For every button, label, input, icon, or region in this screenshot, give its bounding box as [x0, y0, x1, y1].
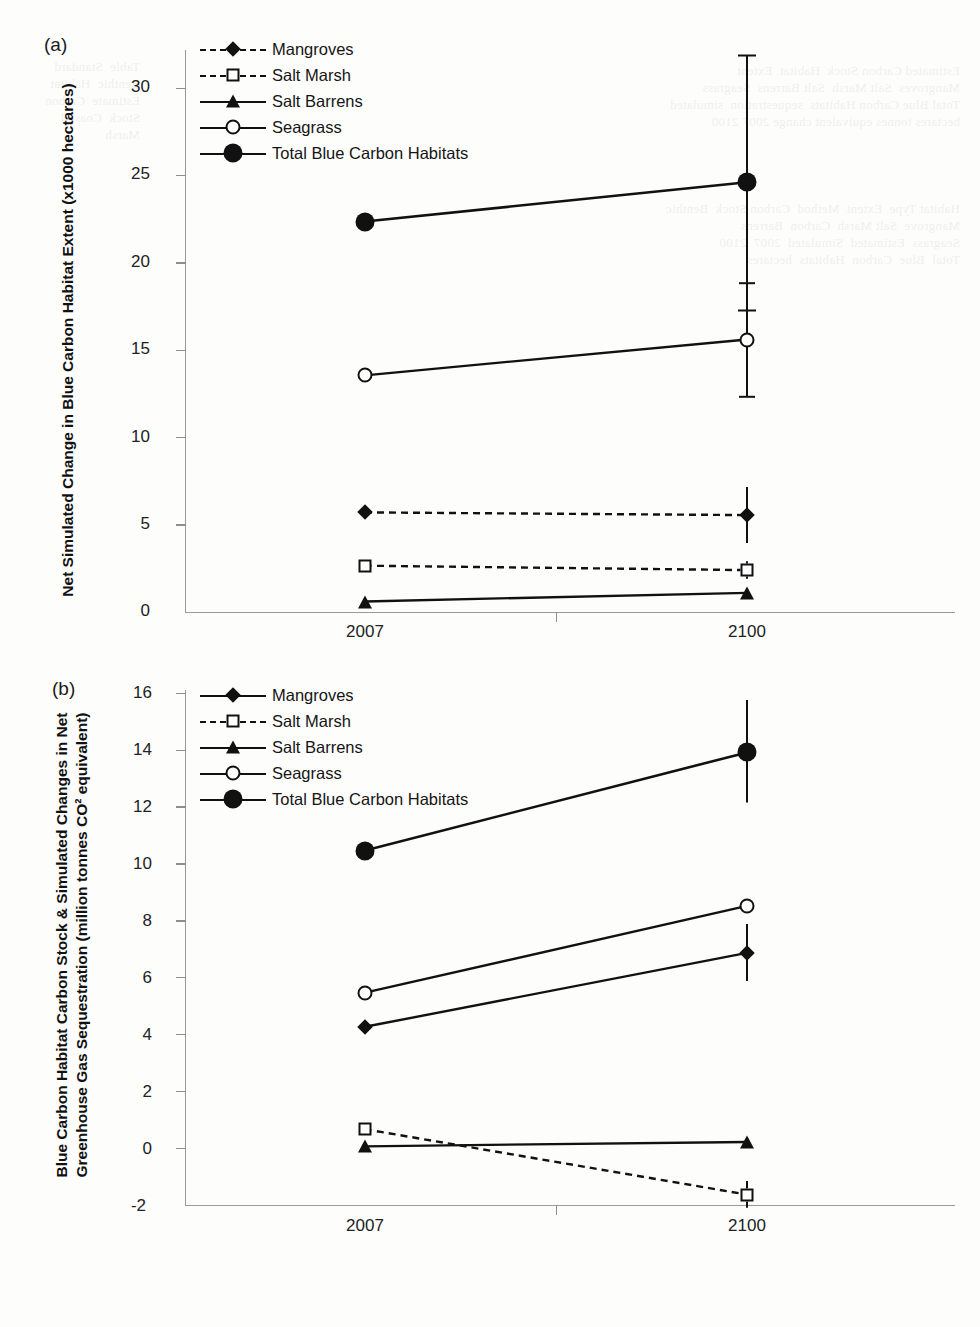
panel-b-point-total-2007	[356, 841, 375, 860]
panel-a-point-salt-barrens-2007	[358, 595, 372, 608]
panel-b-point-seagrass-2007	[358, 985, 373, 1000]
panel-a-point-salt-barrens-2100	[740, 586, 754, 599]
panel-b-point-salt-marsh-2100	[741, 1188, 754, 1201]
panel-b-point-salt-marsh-2007	[359, 1123, 372, 1136]
panel-a-point-seagrass-2100	[740, 332, 755, 347]
panel-a-point-salt-marsh-2007	[359, 559, 372, 572]
panel-a-point-salt-marsh-2100	[741, 564, 754, 577]
panel-b-line-seagrass	[365, 906, 747, 993]
panel-a-point-total-2100	[738, 173, 757, 192]
panel-b-point-total-2100	[738, 743, 757, 762]
panel-b-plot-area	[0, 0, 980, 1327]
panel-b-line-total	[365, 752, 747, 850]
panel-b-point-seagrass-2100	[740, 898, 755, 913]
panel-b-point-salt-barrens-2100	[740, 1136, 754, 1149]
panel-b-point-salt-barrens-2007	[358, 1140, 372, 1153]
panel-b-line-mangroves	[365, 953, 747, 1027]
panel-b-series-lines	[0, 0, 980, 1327]
panel-b: (b) Blue Carbon Habitat Carbon Stock & S…	[0, 0, 980, 1327]
panel-a-point-total-2007	[356, 212, 375, 231]
figure-page: (a) Net Simulated Change in Blue Carbon …	[0, 0, 980, 1327]
panel-a-point-seagrass-2007	[358, 368, 373, 383]
panel-b-line-salt-barrens	[365, 1142, 747, 1146]
panel-b-line-salt-marsh	[365, 1129, 747, 1194]
